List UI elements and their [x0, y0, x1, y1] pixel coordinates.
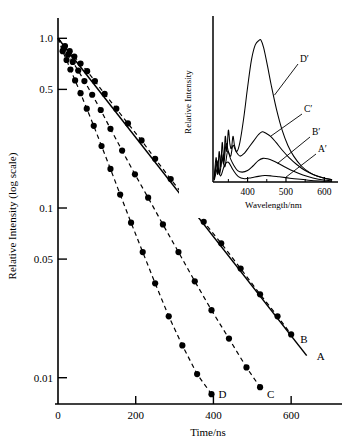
main-data-point: [226, 336, 232, 342]
main-data-point: [75, 68, 81, 74]
main-data-point: [192, 278, 198, 284]
inset-curve-label-D-prime: D′: [300, 54, 309, 64]
main-data-point: [119, 147, 125, 153]
main-data-point: [91, 123, 97, 129]
main-curve-label-D: D: [218, 388, 226, 400]
main-data-point: [77, 60, 83, 66]
main-data-point: [84, 106, 90, 112]
main-data-point: [145, 195, 151, 201]
main-data-point: [71, 54, 77, 60]
main-y-tick-label: 1.0: [39, 32, 53, 44]
main-data-point: [218, 240, 224, 246]
main-x-tick-label: 600: [283, 409, 300, 421]
main-y-tick-label: 0.01: [34, 372, 53, 384]
main-data-point: [60, 48, 66, 54]
main-x-tick-label: 400: [205, 409, 222, 421]
main-y-tick-label: 0.5: [39, 83, 53, 95]
main-data-point: [238, 265, 244, 271]
inset-y-axis-title: Relative Intensity: [183, 70, 193, 134]
inset-curve-label-A-prime: A′: [318, 144, 327, 154]
main-data-point: [201, 219, 207, 225]
inset-curve-label-C-prime: C′: [304, 104, 312, 114]
main-data-point: [102, 91, 108, 97]
main-data-point: [288, 331, 294, 337]
main-data-point: [84, 68, 90, 74]
main-data-point: [98, 107, 104, 113]
main-data-point: [160, 221, 166, 227]
main-data-point: [152, 280, 158, 286]
main-data-point: [77, 90, 83, 96]
main-curve-label-A: A: [317, 350, 325, 362]
main-data-point: [166, 313, 172, 319]
main-data-point: [89, 92, 95, 98]
inset-x-tick-label: 400: [240, 187, 255, 197]
main-data-point: [274, 313, 280, 319]
main-data-point: [107, 166, 113, 172]
inset-x-axis-title: Wavelength/nm: [245, 200, 302, 210]
main-data-point: [179, 342, 185, 348]
main-data-point: [98, 143, 104, 149]
main-data-point: [117, 191, 123, 197]
main-x-tick-label: 0: [55, 409, 61, 421]
main-curve-label-C: C: [267, 388, 274, 400]
main-data-point: [63, 57, 69, 63]
main-data-point: [72, 77, 78, 83]
main-x-tick-label: 200: [127, 409, 144, 421]
main-data-point: [138, 137, 144, 143]
main-data-point: [152, 156, 158, 162]
main-data-point: [257, 291, 263, 297]
main-data-point: [140, 249, 146, 255]
main-data-point: [67, 66, 73, 72]
inset-curve-label-B-prime: B′: [312, 127, 320, 137]
main-y-tick-label: 0.1: [39, 202, 53, 214]
main-data-point: [65, 52, 71, 58]
main-curve-label-B: B: [300, 333, 307, 345]
main-data-point: [92, 78, 98, 84]
inset-x-tick-label: 600: [317, 187, 332, 197]
inset-x-tick-label: 500: [279, 187, 294, 197]
main-data-point: [128, 220, 134, 226]
main-y-axis-title: Relative Intensity (log scale): [6, 152, 19, 279]
figure-svg: 1.00.50.10.050.010200400600Time/nsRelati…: [0, 0, 344, 444]
main-y-tick-label: 0.05: [34, 253, 54, 265]
main-data-point: [175, 249, 181, 255]
main-x-axis-title: Time/ns: [190, 426, 226, 438]
main-data-point: [243, 364, 249, 370]
figure-container: 1.00.50.10.050.010200400600Time/nsRelati…: [0, 0, 344, 444]
main-data-point: [194, 371, 200, 377]
main-data-point: [257, 384, 263, 390]
main-data-point: [132, 171, 138, 177]
main-data-point: [125, 120, 131, 126]
main-data-point: [70, 59, 76, 65]
main-data-point: [81, 78, 87, 84]
main-data-point: [107, 126, 113, 132]
main-data-point: [208, 391, 214, 397]
main-data-point: [113, 106, 119, 112]
main-data-point: [208, 307, 214, 313]
main-data-point: [168, 176, 174, 182]
